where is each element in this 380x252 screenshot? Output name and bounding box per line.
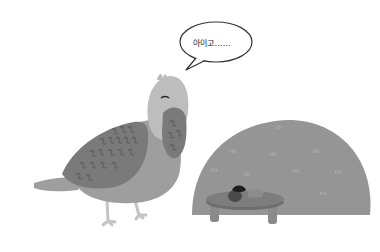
small-table — [206, 191, 284, 224]
speech-bubble-text: 아이고…… — [193, 37, 253, 48]
pigeon — [34, 74, 188, 225]
illustration-scene: 아이고…… — [0, 0, 380, 252]
